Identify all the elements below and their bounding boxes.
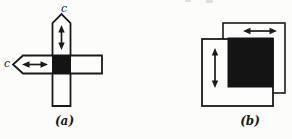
label-c-top: c bbox=[61, 2, 67, 15]
label-c-left: c bbox=[4, 57, 10, 70]
panel-a-drawing: c c (a) bbox=[0, 0, 146, 139]
panel-a: c c (a) bbox=[0, 0, 146, 139]
center-black-square bbox=[53, 56, 71, 74]
panel-b: (b) bbox=[146, 0, 292, 139]
caption-b: (b) bbox=[240, 114, 260, 128]
caption-a: (a) bbox=[55, 114, 74, 128]
figure-canvas: c c (a) (b) bbox=[0, 0, 292, 139]
black-square bbox=[228, 38, 273, 87]
panel-b-drawing: (b) bbox=[146, 0, 292, 139]
